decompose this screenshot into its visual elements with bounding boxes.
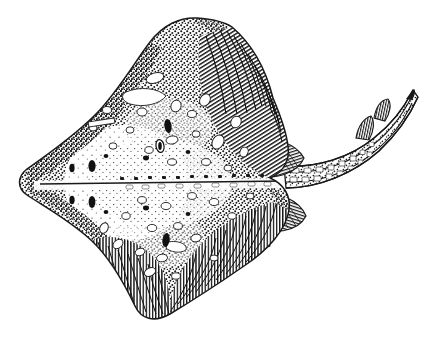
- skate-illustration: [0, 0, 434, 347]
- spot-d: [104, 210, 109, 214]
- spot-c: [104, 154, 109, 158]
- ocellus-left-lower: [89, 196, 96, 208]
- spot-a: [143, 156, 149, 161]
- spot-b: [143, 206, 149, 211]
- ocellus-left-upper: [88, 160, 95, 172]
- spot-f: [186, 212, 191, 216]
- illustration-figure: Black and white stippled line drawing of…: [0, 0, 434, 347]
- spot-e: [186, 150, 191, 154]
- ocellus-mid-lower: [69, 196, 74, 204]
- ocellus-mid-upper: [69, 164, 74, 172]
- eye-left: [158, 142, 162, 150]
